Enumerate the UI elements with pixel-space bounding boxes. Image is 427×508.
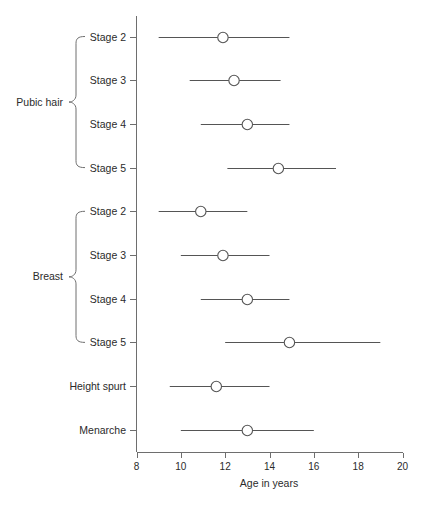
- group-label-pubic-hair: Pubic hair: [16, 96, 63, 108]
- x-tick-label-8: 8: [134, 461, 140, 472]
- range-lines-group: [159, 38, 381, 431]
- chart-canvas: 8101214161820 Age in years Stage 2Stage …: [0, 0, 427, 508]
- marker-breast-stage-5: [284, 337, 294, 347]
- marker-breast-stage-3: [218, 250, 228, 260]
- row-label-pubic-hair-stage-2: Stage 2: [90, 31, 126, 43]
- category-tick-marks: [130, 38, 137, 431]
- row-label-pubic-hair-stage-3: Stage 3: [90, 74, 126, 86]
- x-tick-label-16: 16: [308, 461, 320, 472]
- category-labels: Stage 2Stage 3Stage 4Stage 5Stage 2Stage…: [69, 31, 126, 436]
- x-tick-label-14: 14: [264, 461, 276, 472]
- marker-breast-stage-4: [242, 294, 252, 304]
- row-label-breast-stage-2: Stage 2: [90, 205, 126, 217]
- x-axis-tick-labels: 8101214161820: [134, 461, 409, 472]
- x-tick-label-10: 10: [175, 461, 187, 472]
- tanner-stage-age-chart: 8101214161820 Age in years Stage 2Stage …: [0, 0, 427, 508]
- axes-group: [137, 16, 403, 453]
- x-tick-label-12: 12: [220, 461, 232, 472]
- group-label-breast: Breast: [33, 270, 63, 282]
- marker-height-spurt: [211, 381, 221, 391]
- brace-pubic-hair: [69, 37, 85, 168]
- row-label-breast-stage-3: Stage 3: [90, 249, 126, 261]
- x-axis-ticks: [138, 453, 404, 459]
- marker-breast-stage-2: [196, 206, 206, 216]
- marker-menarche: [242, 425, 252, 435]
- marker-pubic-hair-stage-2: [218, 32, 228, 42]
- marker-pubic-hair-stage-3: [229, 75, 239, 85]
- group-brace-labels: Pubic hairBreast: [16, 96, 63, 283]
- row-label-menarche: Menarche: [79, 424, 126, 436]
- x-tick-label-18: 18: [353, 461, 365, 472]
- row-label-breast-stage-4: Stage 4: [90, 293, 126, 305]
- marker-pubic-hair-stage-4: [242, 119, 252, 129]
- row-label-breast-stage-5: Stage 5: [90, 336, 126, 348]
- row-label-pubic-hair-stage-4: Stage 4: [90, 118, 126, 130]
- row-label-pubic-hair-stage-5: Stage 5: [90, 162, 126, 174]
- brace-breast: [69, 211, 85, 342]
- x-axis-title: Age in years: [240, 477, 298, 489]
- row-label-height-spurt: Height spurt: [69, 380, 126, 392]
- marker-points-group: [196, 32, 295, 435]
- group-braces: [69, 37, 85, 343]
- x-tick-label-20: 20: [397, 461, 409, 472]
- marker-pubic-hair-stage-5: [273, 163, 283, 173]
